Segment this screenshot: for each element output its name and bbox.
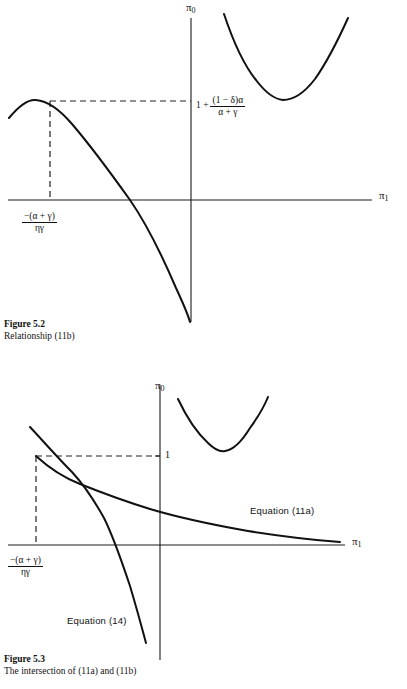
y-value-numerator: (1 − δ)α [210, 95, 245, 107]
curve-right-branch-11b [224, 14, 348, 100]
x-axis-value-annotation: −(α + γ) ηγ [8, 550, 43, 577]
curve-label-equation-11a: Equation (11a) [250, 506, 314, 516]
y-axis-label: π0 [186, 2, 196, 15]
curve-equation-14 [30, 427, 146, 643]
figure-5-3-caption: Figure 5.3 The intersection of (11a) and… [4, 653, 137, 677]
curve-label-equation-14: Equation (14) [67, 616, 127, 626]
y-value-denominator: α + γ [216, 107, 239, 118]
x-value-numerator: −(α + γ) [22, 211, 57, 223]
figure-5-2-caption-text: Relationship (11b) [4, 330, 75, 342]
x-value-denominator: ηγ [33, 223, 46, 234]
x-axis-subscript: 1 [358, 540, 362, 549]
x-value-fraction: −(α + γ) ηγ [22, 211, 57, 233]
y-axis-label: π0 [155, 380, 165, 393]
y-axis-subscript: 0 [161, 384, 165, 393]
figure-5-3-caption-text: The intersection of (11a) and (11b) [4, 665, 137, 677]
y-axis-value-annotation: 1 + (1 − δ)α α + γ [196, 95, 245, 117]
x-axis-label: π1 [379, 190, 389, 203]
y-value-lead-term: 1 + [196, 101, 208, 111]
x-value-fraction: −(α + γ) ηγ [8, 555, 43, 577]
y-axis-tick-label-one: 1 [165, 450, 170, 461]
x-value-denominator: ηγ [19, 567, 32, 578]
figure-5-2: π0 π1 1 + (1 − δ)α α + γ −(α + γ) ηγ Fig… [0, 0, 407, 360]
figure-5-3-caption-title: Figure 5.3 [4, 653, 137, 665]
x-axis-subscript: 1 [385, 194, 389, 203]
figure-5-3: π0 π1 1 −(α + γ) ηγ Equation (11a) Equat… [0, 370, 407, 689]
curve-right-branch-11b [178, 397, 268, 451]
figure-5-2-caption: Figure 5.2 Relationship (11b) [4, 318, 75, 342]
curve-equation-11a [36, 456, 340, 542]
figure-5-2-plot [0, 0, 407, 360]
x-axis-value-annotation: −(α + γ) ηγ [22, 206, 57, 233]
figure-5-3-plot [0, 370, 407, 689]
y-value-fraction: (1 − δ)α α + γ [210, 95, 245, 117]
x-value-numerator: −(α + γ) [8, 555, 43, 567]
x-axis-label: π1 [352, 536, 362, 549]
y-axis-subscript: 0 [192, 6, 196, 15]
figure-5-2-caption-title: Figure 5.2 [4, 318, 75, 330]
